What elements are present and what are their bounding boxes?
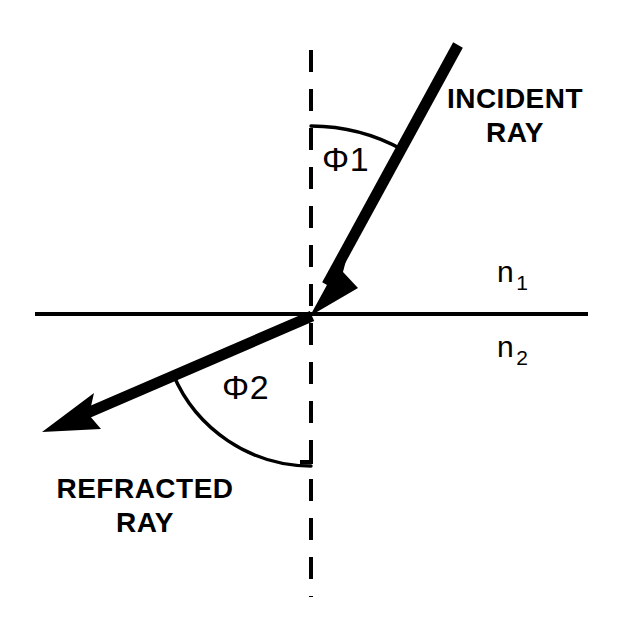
medium-index-n1-subscript: 1 <box>514 271 528 294</box>
medium-index-n2: n2 <box>497 330 528 370</box>
medium-index-n1-symbol: n <box>497 255 514 288</box>
angle-label-phi1-symbol: Φ <box>322 140 350 178</box>
refracted-ray-label: REFRACTED RAY <box>20 472 270 540</box>
angle-label-phi2-symbol: Φ <box>222 368 250 406</box>
angle-label-phi2-subscript: 2 <box>250 368 269 406</box>
refraction-diagram: INCIDENT RAY REFRACTED RAY n1 n2 Φ1 Φ2 <box>0 0 620 629</box>
medium-index-n1: n1 <box>497 255 528 295</box>
angle-label-phi1-subscript: 1 <box>350 140 369 178</box>
refracted-ray-label-line2: RAY <box>20 506 270 540</box>
medium-index-n2-subscript: 2 <box>514 346 528 369</box>
angle-label-phi1: Φ1 <box>322 140 369 179</box>
incident-ray-label: INCIDENT RAY <box>430 82 600 150</box>
medium-index-n2-symbol: n <box>497 330 514 363</box>
refracted-ray-label-line1: REFRACTED <box>20 472 270 506</box>
incident-ray-label-line2: RAY <box>430 116 600 150</box>
incident-ray-label-line1: INCIDENT <box>430 82 600 116</box>
refracted-ray-shaft <box>85 316 312 414</box>
angle-label-phi2: Φ2 <box>222 368 269 407</box>
